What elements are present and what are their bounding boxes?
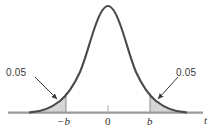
left-tail-shaded-area xyxy=(32,93,66,112)
axis-label-t: t xyxy=(204,114,207,126)
tick-label-zero: 0 xyxy=(105,115,111,127)
right-annotation-arrow xyxy=(158,77,178,99)
tick-label-negative-b: −b xyxy=(57,115,70,127)
t-distribution-figure: 0.05 0.05 −b 0 b t xyxy=(0,0,217,136)
right-tail-area-label: 0.05 xyxy=(176,67,196,78)
left-annotation-arrow xyxy=(35,77,57,99)
right-tail-shaded-area xyxy=(150,93,184,112)
tick-label-positive-b: b xyxy=(147,115,153,127)
distribution-curve xyxy=(30,6,186,112)
left-tail-area-label: 0.05 xyxy=(6,67,26,78)
